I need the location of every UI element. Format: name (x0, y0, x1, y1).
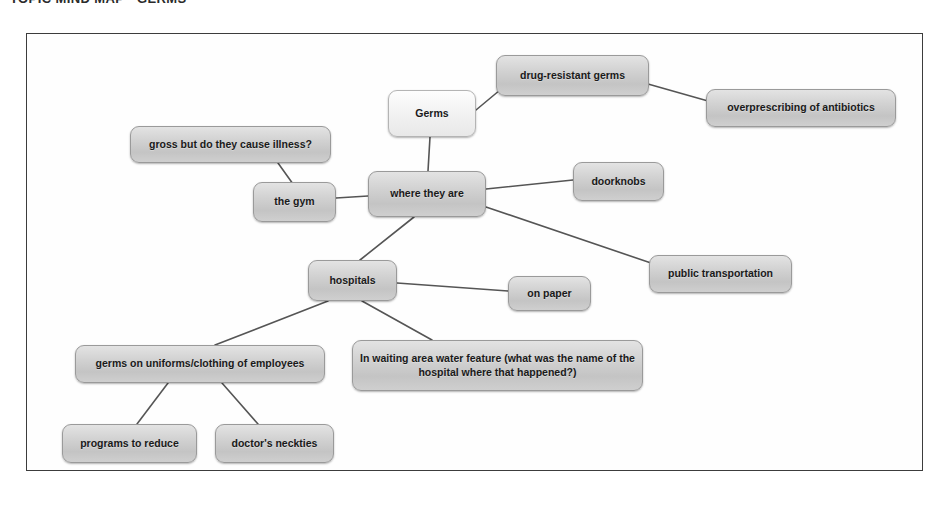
mind-map-canvas: Germsdrug-resistant germsoverprescribing… (0, 0, 950, 513)
mind-map-node-gross-illness[interactable]: gross but do they cause illness? (130, 126, 331, 163)
connector-hospitals-to-water-feature (362, 301, 432, 340)
mind-map-node-the-gym[interactable]: the gym (253, 182, 336, 222)
mind-map-node-uniforms[interactable]: germs on uniforms/clothing of employees (75, 345, 325, 383)
connector-germs-to-drug-resistant (476, 90, 500, 110)
node-label-the-gym: the gym (261, 195, 328, 209)
node-label-hospitals: hospitals (316, 274, 389, 288)
connector-hospitals-to-on-paper (397, 283, 508, 291)
node-label-doorknobs: doorknobs (581, 175, 656, 189)
mind-map-node-hospitals[interactable]: hospitals (308, 260, 397, 301)
node-label-on-paper: on paper (516, 287, 583, 301)
node-label-programs: programs to reduce (70, 437, 189, 451)
connector-where-they-are-to-public-transport (486, 207, 651, 263)
node-label-neckties: doctor's neckties (223, 437, 326, 451)
connector-where-they-are-to-hospitals (360, 217, 414, 260)
node-label-drug-resistant: drug-resistant germs (504, 69, 641, 83)
node-label-germs: Germs (396, 107, 468, 121)
mind-map-node-doorknobs[interactable]: doorknobs (573, 162, 664, 201)
connector-gross-illness-to-the-gym (278, 163, 293, 184)
connector-the-gym-to-where-they-are (336, 196, 368, 198)
mind-map-node-drug-resistant[interactable]: drug-resistant germs (496, 55, 649, 96)
node-label-gross-illness: gross but do they cause illness? (138, 138, 323, 152)
mind-map-node-water-feature[interactable]: In waiting area water feature (what was … (352, 340, 643, 391)
node-label-uniforms: germs on uniforms/clothing of employees (83, 357, 317, 371)
mind-map-node-neckties[interactable]: doctor's neckties (215, 424, 334, 463)
mind-map-node-germs[interactable]: Germs (388, 90, 476, 137)
mind-map-node-on-paper[interactable]: on paper (508, 276, 591, 311)
mind-map-node-where-they-are[interactable]: where they are (368, 171, 486, 217)
mind-map-node-programs[interactable]: programs to reduce (62, 424, 197, 463)
connector-drug-resistant-to-overprescribing (648, 84, 708, 101)
mind-map-node-public-transport[interactable]: public transportation (649, 255, 792, 293)
mind-map-node-overprescribing[interactable]: overprescribing of antibiotics (706, 89, 896, 127)
connector-where-they-are-to-doorknobs (486, 180, 573, 189)
connector-germs-to-where-they-are (428, 137, 430, 171)
node-label-overprescribing: overprescribing of antibiotics (714, 101, 888, 115)
node-label-where-they-are: where they are (376, 187, 478, 201)
connector-hospitals-to-uniforms (215, 301, 328, 345)
node-label-water-feature: In waiting area water feature (what was … (360, 352, 635, 380)
connector-uniforms-to-neckties (222, 383, 258, 424)
connector-uniforms-to-programs (137, 383, 168, 424)
node-label-public-transport: public transportation (657, 267, 784, 281)
